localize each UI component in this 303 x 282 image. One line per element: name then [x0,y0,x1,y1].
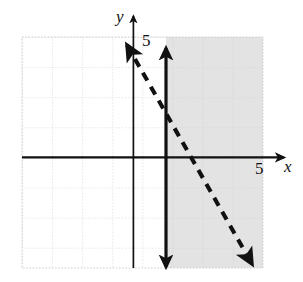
coordinate-plane-svg [0,0,303,282]
x-axis-label: x [284,158,292,175]
grid-lines [22,37,263,268]
y-axis-label: y [116,8,124,25]
graph-figure: y 5 x 5 [0,0,303,282]
x-axis-tick-label-5: 5 [255,160,264,177]
y-axis-tick-label-5: 5 [142,32,151,49]
